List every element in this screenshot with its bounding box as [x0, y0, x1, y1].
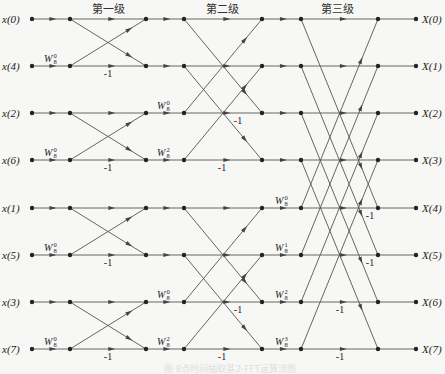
arrow-icon — [163, 17, 170, 21]
minus-one-label: -1 — [104, 162, 112, 173]
butterfly-node — [182, 206, 186, 210]
output-node — [414, 347, 418, 351]
butterfly-node — [260, 111, 264, 115]
butterfly-node — [182, 300, 186, 304]
butterfly-node — [260, 253, 264, 257]
arrow-icon — [223, 300, 230, 304]
twiddle-w: W — [44, 242, 54, 253]
arrow-icon — [125, 215, 133, 222]
twiddle-n: 8 — [54, 152, 57, 159]
butterfly-node — [260, 17, 264, 21]
arrow-icon — [49, 206, 56, 210]
butterfly-node — [182, 17, 186, 21]
arrow-icon — [125, 52, 133, 59]
input-label: x(0) — [2, 13, 20, 25]
stage-title-3: 第三级 — [321, 0, 354, 16]
butterfly-node — [182, 347, 186, 351]
output-node — [414, 158, 418, 162]
arrow-icon — [163, 253, 170, 257]
twiddle-factor-label: W08 — [157, 99, 170, 113]
butterfly-node — [260, 300, 264, 304]
twiddle-factor-label: W08 — [157, 288, 170, 302]
output-label: X(1) — [422, 60, 442, 72]
arrow-icon — [280, 158, 287, 162]
input-node — [30, 206, 34, 210]
butterfly-node — [144, 347, 148, 351]
input-label: x(7) — [2, 343, 20, 355]
arrow-icon — [125, 146, 133, 153]
butterfly-node — [376, 111, 380, 115]
butterfly-node — [299, 64, 303, 68]
minus-one-label: -1 — [218, 351, 226, 362]
butterfly-node — [144, 253, 148, 257]
butterfly-node — [299, 347, 303, 351]
butterfly-node — [144, 206, 148, 210]
twiddle-w: W — [157, 147, 167, 158]
arrow-icon — [358, 303, 364, 311]
input-label: x(5) — [2, 249, 20, 261]
branch-labels: W08W08W08W08W08W28W08W28W08W18W28W38-1-1… — [44, 52, 374, 363]
butterfly-node — [182, 111, 186, 115]
arrow-icon — [223, 206, 230, 210]
butterfly-node — [260, 347, 264, 351]
arrow-icon — [125, 309, 133, 316]
butterfly-node — [68, 206, 72, 210]
arrow-icon — [125, 26, 133, 33]
butterfly-node — [376, 206, 380, 210]
butterfly-node — [144, 111, 148, 115]
output-node — [414, 300, 418, 304]
butterfly-node — [376, 300, 380, 304]
butterfly-node — [376, 347, 380, 351]
arrow-icon — [340, 111, 347, 115]
output-label: X(0) — [422, 13, 442, 25]
arrow-icon — [340, 206, 347, 210]
minus-one-label: -1 — [218, 162, 226, 173]
output-node — [414, 17, 418, 21]
butterfly-node — [299, 111, 303, 115]
butterfly-node — [68, 300, 72, 304]
arrow-icon — [340, 17, 347, 21]
twiddle-w: W — [157, 336, 167, 347]
minus-one-label: -1 — [336, 304, 344, 315]
minus-one-label: -1 — [234, 115, 242, 126]
arrow-icon — [108, 17, 115, 21]
arrow-icon — [358, 209, 364, 217]
arrow-icon — [280, 111, 287, 115]
arrow-icon — [340, 64, 347, 68]
butterfly-node — [376, 17, 380, 21]
arrow-icon — [223, 111, 230, 115]
arrow-icon — [340, 158, 347, 162]
twiddle-factor-label: W28 — [275, 288, 288, 302]
minus-one-label: -1 — [336, 351, 344, 362]
arrow-icon — [125, 120, 133, 127]
twiddle-n: 8 — [285, 294, 288, 301]
twiddle-factor-label: W28 — [157, 335, 170, 349]
stage-title-1: 第一级 — [92, 0, 125, 16]
arrow-icon — [49, 111, 56, 115]
butterfly-node — [68, 64, 72, 68]
arrow-icon — [49, 300, 56, 304]
figure-caption: 图 8点时间抽取基2-FFT运算流图 — [120, 362, 340, 374]
output-label: X(2) — [422, 107, 442, 119]
butterfly-node — [182, 158, 186, 162]
butterfly-node — [299, 17, 303, 21]
twiddle-factor-label: W08 — [44, 146, 57, 160]
twiddle-n: 8 — [285, 247, 288, 254]
butterfly-node — [144, 158, 148, 162]
butterfly-node — [299, 206, 303, 210]
twiddle-n: 8 — [167, 341, 170, 348]
input-label: x(3) — [2, 296, 20, 308]
arrow-icon — [125, 241, 133, 248]
twiddle-n: 8 — [167, 152, 170, 159]
butterfly-node — [144, 300, 148, 304]
arrow-icon — [358, 104, 364, 112]
arrow-icon — [223, 64, 230, 68]
twiddle-w: W — [44, 336, 54, 347]
output-label: X(3) — [422, 154, 442, 166]
minus-one-label: -1 — [234, 304, 242, 315]
twiddle-w: W — [44, 53, 54, 64]
input-node — [30, 64, 34, 68]
butterfly-node — [376, 253, 380, 257]
arrow-icon — [163, 64, 170, 68]
butterfly-node — [299, 158, 303, 162]
